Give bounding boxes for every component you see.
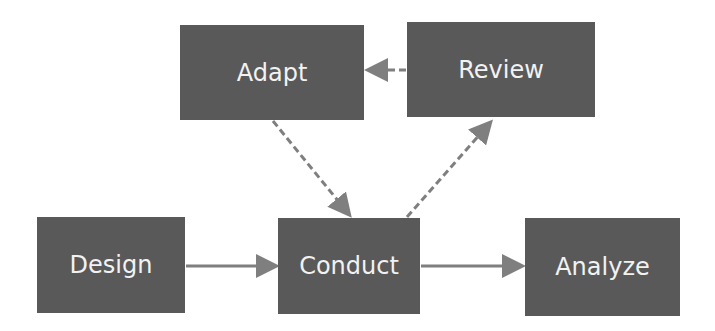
arrow-adapt-conduct xyxy=(273,121,348,213)
node-conduct: Conduct xyxy=(278,218,420,314)
node-design: Design xyxy=(37,217,185,313)
node-label: Design xyxy=(70,251,153,279)
node-label: Analyze xyxy=(555,253,650,281)
node-label: Adapt xyxy=(237,59,308,87)
node-label: Review xyxy=(458,56,544,84)
arrow-conduct-review xyxy=(407,124,489,217)
node-analyze: Analyze xyxy=(525,218,680,316)
node-adapt: Adapt xyxy=(180,25,364,120)
node-review: Review xyxy=(407,22,595,117)
node-label: Conduct xyxy=(299,252,399,280)
